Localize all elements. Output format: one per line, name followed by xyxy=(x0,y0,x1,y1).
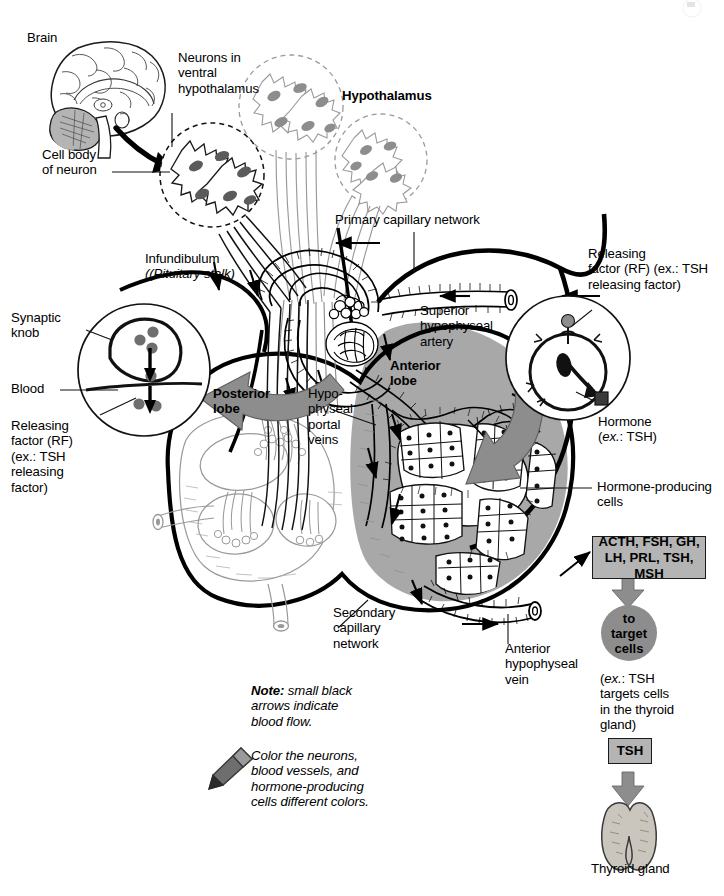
diagram-page: Brain Neurons in ventral hypothalamus Ce… xyxy=(0,0,724,896)
hormone-list-box: ACTH, FSH, GH, LH, PRL, TSH, MSH xyxy=(592,536,706,579)
label-secondary-capillary-network: Secondary capillary network xyxy=(333,605,395,651)
color-instruction: Color the neurons, blood vessels, and ho… xyxy=(251,748,431,810)
tsh-box: TSH xyxy=(608,738,652,764)
target-cells-circle: to target cells xyxy=(601,605,657,661)
label-hormone-sub: (ex.: TSH) xyxy=(598,429,657,444)
synaptic-knob-detail xyxy=(78,304,210,436)
label-infundibulum-sub: ((Pituitary stalk) xyxy=(145,266,235,281)
label-releasing-factor-left: Releasing factor (RF) (ex.: TSH releasin… xyxy=(11,418,73,495)
label-superior-hypophyseal-artery: Superior hypophyseal artery xyxy=(420,303,493,349)
label-thyroid-gland: Thyroid gland xyxy=(591,861,670,876)
crayon-icon xyxy=(203,745,255,791)
label-hypothalamus: Hypothalamus xyxy=(342,88,432,103)
scan-artifact xyxy=(683,0,701,17)
label-infundibulum: Infundibulum xyxy=(145,251,219,266)
label-hormone: Hormone xyxy=(598,414,652,429)
label-posterior-lobe: Posterior lobe xyxy=(213,386,270,417)
note-block: Note: small black arrows indicate blood … xyxy=(251,683,411,729)
label-releasing-factor-right: Releasing factor (RF) (ex.: TSH releasin… xyxy=(588,246,724,292)
flow-arrow-to-thyroid xyxy=(612,772,644,806)
label-anterior-lobe: Anterior lobe xyxy=(390,358,441,389)
label-synaptic-knob: Synaptic knob xyxy=(11,310,61,341)
label-cell-body-of-neuron: Cell body of neuron xyxy=(42,147,97,178)
label-neurons-ventral-hypothalamus: Neurons in ventral hypothalamus xyxy=(178,50,259,96)
label-blood: Blood xyxy=(11,381,44,396)
hormone-cell-detail xyxy=(506,296,630,420)
label-brain: Brain xyxy=(27,30,57,45)
label-target-note: (ex.: TSHtargets cellsin the thyroidglan… xyxy=(600,671,700,733)
label-primary-capillary-network: Primary capillary network xyxy=(335,212,480,227)
thyroid-icon xyxy=(602,803,657,870)
label-hormone-producing-cells: Hormone-producing cells xyxy=(597,479,712,510)
label-anterior-hypophyseal-vein: Anterior hypophyseal vein xyxy=(505,641,578,687)
label-hypophyseal-portal-veins: Hypo- physeal portal veins xyxy=(308,386,353,448)
